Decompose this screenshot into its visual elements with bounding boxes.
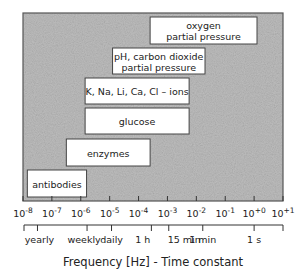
x-tick-label: 10-6 bbox=[71, 206, 91, 219]
x-tick-label: 10-7 bbox=[42, 206, 62, 219]
x-axis-title: Frequency [Hz] - Time constant bbox=[63, 255, 243, 269]
time-tick-label: daily bbox=[100, 234, 123, 245]
range-bar-label: antibodies bbox=[32, 179, 82, 190]
time-tick-label: weekly bbox=[67, 234, 101, 245]
range-bar-label: partial pressure bbox=[121, 62, 196, 73]
range-bar: K, Na, Li, Ca, Cl – ions bbox=[85, 78, 189, 104]
time-tick-label: 1 s bbox=[247, 234, 261, 245]
x-tick-label: 10-8 bbox=[13, 206, 33, 219]
time-tick-label: 1 h bbox=[135, 234, 150, 245]
range-bar-label: pH, carbon dioxide bbox=[114, 51, 204, 62]
range-bar-label: oxygen bbox=[186, 20, 221, 31]
range-bar-label: enzymes bbox=[87, 148, 130, 159]
range-bar-label: glucose bbox=[119, 116, 156, 127]
time-tick-label: 1 min bbox=[189, 234, 216, 245]
x-tick-label: 10+0 bbox=[243, 206, 266, 219]
x-tick-label: 10-3 bbox=[158, 206, 178, 219]
range-bar: pH, carbon dioxidepartial pressure bbox=[113, 48, 205, 74]
range-bar: enzymes bbox=[66, 139, 150, 166]
range-bar-label: partial pressure bbox=[166, 31, 241, 42]
frequency-range-chart: oxygenpartial pressurepH, carbon dioxide… bbox=[0, 0, 302, 280]
range-bar-label: K, Na, Li, Ca, Cl – ions bbox=[86, 86, 189, 97]
range-bar: oxygenpartial pressure bbox=[150, 17, 257, 44]
range-bar: glucose bbox=[85, 108, 189, 134]
x-tick-label: 10-4 bbox=[129, 206, 149, 219]
x-tick-label: 10-1 bbox=[215, 206, 235, 219]
time-tick-label: yearly bbox=[25, 234, 55, 245]
x-tick-label: 10-2 bbox=[187, 206, 207, 219]
range-bar: antibodies bbox=[27, 170, 86, 197]
x-tick-label: 10+1 bbox=[271, 206, 294, 219]
time-constant-axis: yearlyweeklydaily1 h15 min1 min1 s bbox=[24, 225, 283, 245]
x-tick-label: 10-5 bbox=[100, 206, 120, 219]
